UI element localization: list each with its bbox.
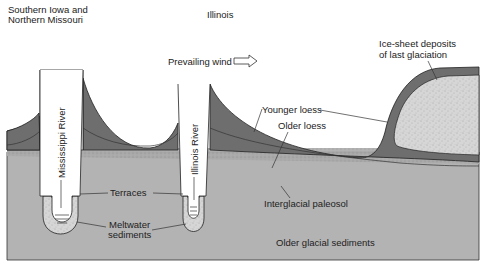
- older-glacial-label: Older glacial sediments: [276, 237, 375, 248]
- loess-cross-section-diagram: Southern Iowa and Northern Missouri Illi…: [0, 0, 496, 268]
- mississippi-river-label: Mississippi River: [56, 107, 67, 178]
- ice-sheet-label-line1: Ice-sheet deposits: [379, 38, 456, 49]
- region-label-illinois: Illinois: [207, 9, 234, 20]
- illinois-river-label: Illinois River: [189, 124, 200, 175]
- older-loess-label: Older loess: [278, 120, 326, 131]
- paleosol-label: Interglacial paleosol: [264, 198, 348, 209]
- ice-sheet-label-line2: of last glaciation: [379, 49, 447, 60]
- younger-loess-label: Younger loess: [262, 104, 322, 115]
- region-label-iowa-line2: Northern Missouri: [8, 14, 83, 25]
- meltwater-label-line2: sediments: [108, 229, 152, 240]
- terraces-label: Terraces: [110, 187, 147, 198]
- prevailing-wind-label: Prevailing wind: [168, 56, 232, 67]
- loess-hill-between-rivers: [83, 78, 178, 150]
- arrow-right-outline-icon: [234, 55, 257, 67]
